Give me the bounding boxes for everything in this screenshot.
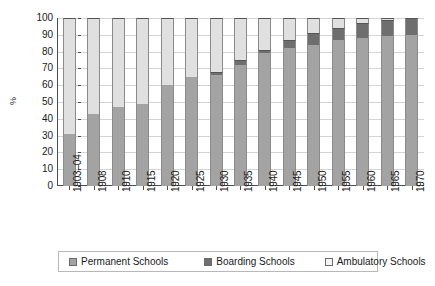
bar-segment-permanent: [356, 38, 369, 186]
bar-1950: [307, 18, 320, 186]
bar-1915: [136, 18, 149, 186]
bar-segment-permanent: [210, 75, 223, 186]
x-tick-mark: [412, 186, 413, 190]
y-tick-label: 50: [29, 97, 53, 107]
legend-label: Permanent Schools: [81, 257, 168, 267]
x-tick-label: 1935: [244, 171, 254, 192]
x-tick-label: 1930: [220, 171, 230, 192]
x-tick-label: 1950: [318, 171, 328, 192]
bar-1910: [112, 18, 125, 186]
bar-1955: [332, 18, 345, 186]
y-tick-mark: [78, 119, 81, 120]
legend-swatch-icon: [325, 258, 333, 266]
chart-legend: Permanent SchoolsBoarding SchoolsAmbulat…: [58, 251, 378, 272]
y-tick-mark: [78, 68, 81, 69]
bar-1945: [283, 18, 296, 186]
bar-segment-ambulatory: [185, 18, 198, 77]
bar-segment-permanent: [332, 40, 345, 186]
y-tick-mark: [78, 18, 81, 19]
bar-1970: [405, 18, 418, 186]
y-tick-mark: [78, 35, 81, 36]
bar-segment-ambulatory: [234, 18, 247, 60]
x-tick-mark: [338, 186, 339, 190]
x-tick-label: 1960: [367, 171, 377, 192]
legend-item-permanent[interactable]: Permanent Schools: [69, 257, 168, 267]
x-tick-label: 1970: [416, 171, 426, 192]
bar-segment-boarding: [381, 20, 394, 37]
bar-segment-ambulatory: [136, 18, 149, 104]
bar-segment-boarding: [356, 23, 369, 38]
y-tick-label: 20: [29, 147, 53, 157]
bar-segment-ambulatory: [87, 18, 100, 114]
y-tick-label: 40: [29, 114, 53, 124]
y-tick-label: 100: [29, 13, 53, 23]
bar-segment-permanent: [258, 53, 271, 186]
x-tick-mark: [265, 186, 266, 190]
legend-item-boarding[interactable]: Boarding Schools: [204, 257, 294, 267]
y-tick-mark: [78, 136, 81, 137]
x-tick-mark: [69, 186, 70, 190]
bar-segment-ambulatory: [258, 18, 271, 50]
bar-segment-ambulatory: [210, 18, 223, 72]
y-tick-label: 90: [29, 30, 53, 40]
legend-swatch-icon: [69, 258, 77, 266]
y-tick-label: 80: [29, 47, 53, 57]
y-tick-label: 60: [29, 80, 53, 90]
x-tick-label: 1908: [98, 171, 108, 192]
x-tick-mark: [216, 186, 217, 190]
x-tick-mark: [118, 186, 119, 190]
bar-1925: [185, 18, 198, 186]
bar-1935: [234, 18, 247, 186]
y-axis-title: %: [8, 87, 18, 115]
y-tick-mark: [78, 52, 81, 53]
bar-1965: [381, 18, 394, 186]
bar-segment-ambulatory: [63, 18, 76, 134]
x-tick-label: 1965: [391, 171, 401, 192]
bar-segment-ambulatory: [283, 18, 296, 40]
bar-segment-permanent: [307, 45, 320, 186]
x-tick-mark: [167, 186, 168, 190]
y-tick-label: 30: [29, 131, 53, 141]
x-tick-label: 1920: [171, 171, 181, 192]
y-tick-mark: [78, 102, 81, 103]
y-tick-mark: [78, 85, 81, 86]
bar-segment-boarding: [332, 28, 345, 40]
bar-1930: [210, 18, 223, 186]
x-tick-label: 1910: [122, 171, 132, 192]
y-tick-label: 0: [29, 181, 53, 191]
y-tick-label: 70: [29, 63, 53, 73]
y-tick-label: 10: [29, 164, 53, 174]
bar-segment-ambulatory: [112, 18, 125, 107]
x-tick-mark: [314, 186, 315, 190]
bar-1960: [356, 18, 369, 186]
x-tick-label: 1940: [269, 171, 279, 192]
bar-segment-permanent: [283, 48, 296, 186]
x-tick-mark: [94, 186, 95, 190]
bar-segment-permanent: [381, 36, 394, 186]
bar-segment-boarding: [283, 40, 296, 48]
bar-segment-permanent: [234, 65, 247, 186]
bar-segment-ambulatory: [307, 18, 320, 33]
bar-segment-boarding: [405, 18, 418, 35]
x-tick-mark: [143, 186, 144, 190]
x-tick-mark: [240, 186, 241, 190]
y-axis: 0102030405060708090100: [25, 13, 53, 191]
x-tick-mark: [192, 186, 193, 190]
bar-segment-permanent: [405, 35, 418, 186]
bar-1940: [258, 18, 271, 186]
bar-1920: [161, 18, 174, 186]
bar-1908: [87, 18, 100, 186]
x-tick-mark: [289, 186, 290, 190]
legend-item-ambulatory[interactable]: Ambulatory Schools: [325, 257, 426, 267]
legend-label: Boarding Schools: [216, 257, 294, 267]
legend-label: Ambulatory Schools: [337, 257, 426, 267]
legend-swatch-icon: [204, 258, 212, 266]
x-tick-label: 1915: [147, 171, 157, 192]
x-tick-mark: [363, 186, 364, 190]
stacked-bar-chart: 0102030405060708090100 % 1903–0419081910…: [0, 0, 435, 286]
bar-segment-boarding: [307, 33, 320, 45]
x-tick-label: 1903–04: [73, 154, 83, 192]
x-tick-mark: [387, 186, 388, 190]
bar-segment-ambulatory: [332, 18, 345, 28]
x-tick-label: 1945: [293, 171, 303, 192]
